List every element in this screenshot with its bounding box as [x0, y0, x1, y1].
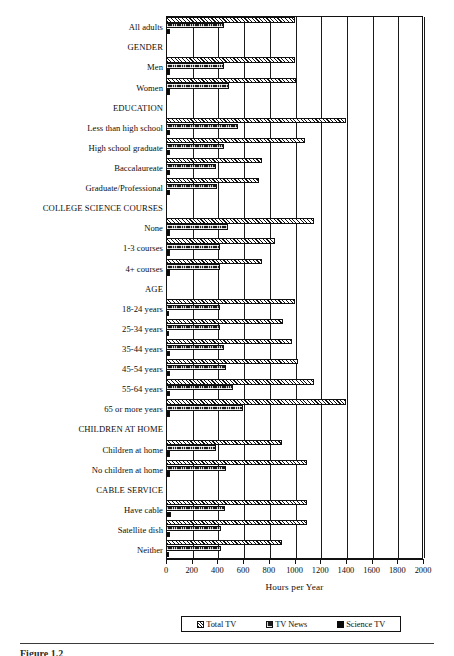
bar-total [166, 178, 259, 183]
category-group-header: EDUCATION [0, 103, 163, 113]
bar-science [166, 130, 170, 135]
category-label: Satellite dish [0, 525, 163, 535]
bar-science [166, 552, 169, 557]
x-tick-mark [269, 559, 270, 564]
bar-science [166, 532, 170, 537]
category-label: Neither [0, 545, 163, 555]
bar-news [166, 164, 216, 169]
bar-total [166, 158, 262, 163]
x-tick-mark [192, 559, 193, 564]
bar-science [166, 190, 170, 195]
bar-news [166, 385, 233, 390]
category-label: Have cable [0, 505, 163, 515]
category-label: Men [0, 62, 163, 72]
bar-science [166, 311, 169, 316]
legend-item[interactable]: Science TV [337, 620, 386, 629]
category-labels: All adultsGENDERMenWomenEDUCATIONLess th… [0, 16, 163, 559]
bar-total [166, 299, 295, 304]
bar-science [166, 270, 170, 275]
bar-science [166, 351, 170, 356]
bar-rows [166, 16, 423, 559]
bar-news [166, 325, 220, 330]
category-group-header: GENDER [0, 42, 163, 52]
x-tick-label: 2000 [403, 566, 443, 576]
bar-total [166, 339, 292, 344]
bar-science [166, 170, 170, 175]
bar-total [166, 319, 283, 324]
bar-total [166, 118, 346, 123]
legend-swatch-science [337, 621, 344, 628]
category-label: Women [0, 83, 163, 93]
category-label: Children at home [0, 445, 163, 455]
x-tick-mark [295, 559, 296, 564]
bar-news [166, 506, 225, 511]
category-group-header: COLLEGE SCIENCE COURSES [0, 203, 163, 213]
bar-news [166, 445, 216, 450]
bar-science [166, 391, 170, 396]
bar-news [166, 83, 229, 88]
bar-news [166, 365, 226, 370]
bar-total [166, 399, 346, 404]
bar-news [166, 23, 224, 28]
category-label: None [0, 223, 163, 233]
bar-news [166, 405, 243, 410]
category-label: 4+ courses [0, 264, 163, 274]
bar-total [166, 17, 295, 22]
bar-total [166, 259, 262, 264]
category-label: Less than high school [0, 123, 163, 133]
bar-total [166, 359, 298, 364]
bar-science [166, 451, 170, 456]
gridline [424, 17, 425, 558]
bar-science [166, 512, 171, 517]
bar-news [166, 184, 217, 189]
category-label: 45-54 years [0, 364, 163, 374]
x-tick-mark [397, 559, 398, 564]
bar-science [166, 230, 170, 235]
category-label: No children at home [0, 465, 163, 475]
bar-total [166, 540, 282, 545]
x-tick-mark [346, 559, 347, 564]
bar-science [166, 371, 170, 376]
category-label: 35-44 years [0, 344, 163, 354]
bar-total [166, 460, 307, 465]
bar-news [166, 546, 221, 551]
bar-total [166, 440, 282, 445]
bar-science [166, 250, 170, 255]
bar-news [166, 224, 228, 229]
category-group-header: CABLE SERVICE [0, 485, 163, 495]
category-label: 65 or more years [0, 404, 163, 414]
x-tick-mark [372, 559, 373, 564]
category-label: Graduate/Professional [0, 183, 163, 193]
chart-legend: Total TVTV NewsScience TV [181, 616, 401, 632]
category-label: All adults [0, 22, 163, 32]
bar-science [166, 471, 170, 476]
x-tick-mark [166, 559, 167, 564]
bar-science [166, 89, 170, 94]
legend-swatch-news [266, 621, 273, 628]
category-label: 18-24 years [0, 304, 163, 314]
legend-item[interactable]: Total TV [197, 620, 237, 629]
legend-label: TV News [275, 620, 307, 629]
bar-total [166, 57, 295, 62]
category-label: Baccalaureate [0, 163, 163, 173]
bar-total [166, 78, 296, 83]
bar-total [166, 218, 314, 223]
x-tick-mark [217, 559, 218, 564]
legend-label: Total TV [206, 620, 236, 629]
x-tick-mark [423, 559, 424, 564]
bar-total [166, 138, 305, 143]
category-label: 55-64 years [0, 384, 163, 394]
bar-news [166, 526, 221, 531]
bar-news [166, 63, 224, 68]
category-label: 1-3 courses [0, 243, 163, 253]
figure-caption: Figure 1.2 [20, 648, 63, 656]
bar-science [166, 150, 170, 155]
x-tick-mark [243, 559, 244, 564]
category-group-header: CHILDREN AT HOME [0, 424, 163, 434]
bar-science [166, 331, 169, 336]
bar-total [166, 238, 275, 243]
legend-label: Science TV [346, 620, 385, 629]
legend-item[interactable]: TV News [266, 620, 308, 629]
figure-container: All adultsGENDERMenWomenEDUCATIONLess th… [0, 0, 454, 656]
bar-science [166, 69, 170, 74]
